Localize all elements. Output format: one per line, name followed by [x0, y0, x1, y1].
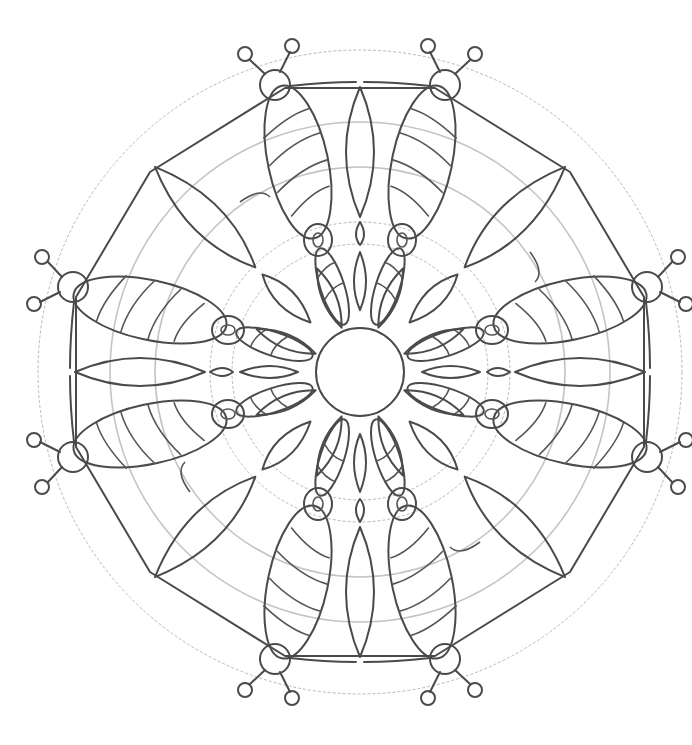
outer-circle	[38, 50, 682, 694]
center-circle	[316, 328, 404, 416]
mandala-drawing	[0, 0, 692, 745]
mandala-svg	[0, 0, 692, 745]
inner-guide-circle-2	[232, 244, 488, 500]
mandala-pattern	[27, 39, 692, 705]
